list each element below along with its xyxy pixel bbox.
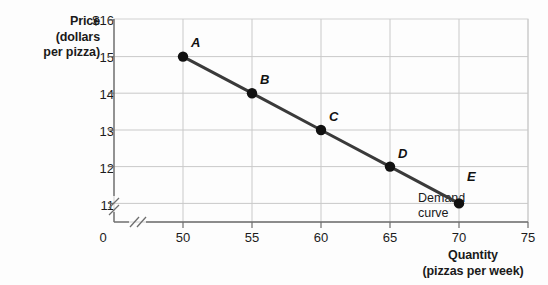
- y-axis-ticks: [108, 20, 114, 203]
- data-point-e: [454, 198, 464, 208]
- vertical-gridlines: [183, 19, 528, 222]
- demand-curve-chart: Price (dollars per pizza) Quantity (pizz…: [0, 0, 548, 285]
- data-point-b: [247, 88, 257, 98]
- plot-area: [0, 0, 548, 285]
- data-point-d: [385, 161, 395, 171]
- data-point-a: [178, 51, 188, 61]
- x-axis-ticks: [183, 222, 528, 228]
- data-point-c: [316, 125, 326, 135]
